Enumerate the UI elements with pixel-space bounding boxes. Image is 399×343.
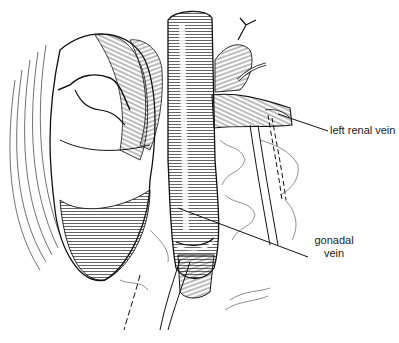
label-gonadal-vein: gonadal vein [310,234,358,260]
bowel-mass [50,34,162,280]
label-gonadal-vein-line1: gonadal [310,234,358,247]
label-left-renal-vein: left renal vein [330,124,395,137]
left-renal-vein [212,18,292,128]
vena-cava [168,11,219,298]
label-gonadal-vein-line2: vein [310,247,358,260]
anatomical-illustration [0,0,399,343]
